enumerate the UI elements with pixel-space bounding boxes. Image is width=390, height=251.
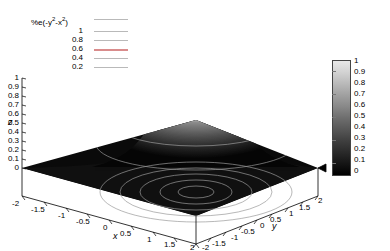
z-tick-0: 0 <box>0 164 19 172</box>
z-tick-10: 1 <box>0 74 19 82</box>
cbar-tick-4: 0.6 <box>354 101 365 109</box>
x-tick-7: 1.5 <box>164 241 175 249</box>
key-sample-line-3 <box>94 58 128 59</box>
key-sample-line-fn <box>94 19 128 20</box>
z-tick-4: 0.4 <box>0 128 19 136</box>
y-tick-7: 1.5 <box>299 204 310 212</box>
z-tick-1: 0.1 <box>0 155 19 163</box>
cbar-tick-9: 0.1 <box>354 156 365 164</box>
z-tick-2: 0.2 <box>0 146 19 154</box>
key-sample-line-4 <box>94 67 128 68</box>
x-tick-4: 0 <box>103 224 107 232</box>
cbar-tick-8: 0.2 <box>354 145 365 153</box>
y-tick-2: -1 <box>231 234 238 242</box>
cbar-tick-0: 1 <box>354 57 358 65</box>
colorbar-gradient <box>332 60 351 176</box>
z-tick-6: 0.6 <box>0 110 19 118</box>
key-fn-exp: (-y <box>43 18 52 27</box>
cbar-tick-7: 0.3 <box>354 134 365 142</box>
z-tick-7: 0.7 <box>0 101 19 109</box>
x-axis-label: x <box>113 232 118 240</box>
y-tick-3: -0.5 <box>241 228 255 236</box>
y-tick-5: 0.5 <box>270 216 281 224</box>
z-tick-8: 0.8 <box>0 92 19 100</box>
key-label-3: 0.4 <box>48 54 83 62</box>
x-tick-3: -0.5 <box>76 218 90 226</box>
x-tick-2: -1 <box>58 212 65 220</box>
z-axis-ticks <box>22 78 26 169</box>
z-tick-3: 0.3 <box>0 137 19 145</box>
cbar-tick-3: 0.7 <box>354 90 365 98</box>
key-label-0: 1 <box>48 27 83 35</box>
y-tick-4: 0 <box>260 222 264 230</box>
colorbar-connector <box>318 164 326 172</box>
key-function-label: %e(-y2-x2) <box>31 15 68 27</box>
x-tick-6: 1 <box>147 236 151 244</box>
key-sample-line-2 <box>94 49 128 51</box>
y-tick-8: 2 <box>318 197 322 205</box>
key-fn-close: ) <box>65 18 68 27</box>
x-tick-8: 2 <box>190 244 194 251</box>
x-tick-1: -1.5 <box>31 206 45 214</box>
key-label-2: 0.6 <box>48 45 83 53</box>
key-sample-line-1 <box>94 40 128 41</box>
cbar-tick-5: 0.5 <box>354 112 365 120</box>
surface-mesh <box>22 57 318 216</box>
cbar-tick-10: 0 <box>354 167 358 175</box>
x-tick-5: 0.5 <box>120 230 131 238</box>
key-label-4: 0.2 <box>48 63 83 71</box>
key-fn-prefix: %e <box>31 18 43 27</box>
key-label-1: 0.8 <box>48 36 83 44</box>
x-tick-0: -2 <box>12 200 19 208</box>
key-fn-mid: -x <box>55 18 62 27</box>
y-tick-0: -2 <box>202 244 209 251</box>
y-tick-6: 1 <box>289 210 293 218</box>
cbar-tick-6: 0.4 <box>354 123 365 131</box>
z-tick-9: 0.9 <box>0 83 19 91</box>
y-tick-1: -1.5 <box>212 240 226 248</box>
z-tick-5: 0.5 <box>0 119 19 127</box>
cbar-tick-2: 0.8 <box>354 79 365 87</box>
cbar-tick-1: 0.9 <box>354 68 365 76</box>
key-sample-line-0 <box>94 31 128 32</box>
